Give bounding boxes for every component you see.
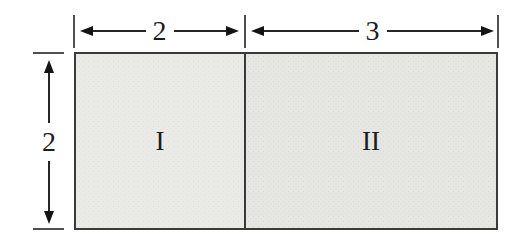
dimension-line	[174, 30, 227, 32]
tick-mark-left-top	[33, 52, 64, 54]
top-dimension-region-ii: 3	[251, 24, 494, 38]
dimension-line	[264, 30, 359, 32]
region-i-label: I	[156, 128, 165, 155]
tick-mark-top-right	[497, 15, 499, 48]
dimension-line	[48, 73, 50, 123]
arrow-right-icon	[481, 26, 494, 36]
dimension-label-width-i: 2	[146, 24, 174, 38]
diagram-canvas: 2 3 2 I II	[0, 0, 523, 250]
dimension-line	[48, 161, 50, 211]
dimension-line	[93, 30, 146, 32]
tick-mark-top-middle	[244, 15, 246, 48]
arrow-up-icon	[44, 60, 54, 73]
dimension-line	[387, 30, 482, 32]
rectangle: I II	[74, 52, 498, 230]
region-i: I	[76, 54, 246, 228]
arrow-down-icon	[44, 211, 54, 224]
dimension-label-height: 2	[42, 123, 56, 161]
arrow-left-icon	[80, 26, 93, 36]
region-ii-label: II	[362, 128, 380, 155]
arrow-left-icon	[251, 26, 264, 36]
tick-mark-top-left	[73, 15, 75, 48]
dimension-label-width-ii: 3	[359, 24, 387, 38]
region-ii: II	[246, 54, 496, 228]
top-dimension-region-i: 2	[80, 24, 239, 38]
left-dimension-height: 2	[42, 60, 56, 224]
arrow-right-icon	[226, 26, 239, 36]
tick-mark-left-bottom	[33, 228, 64, 230]
